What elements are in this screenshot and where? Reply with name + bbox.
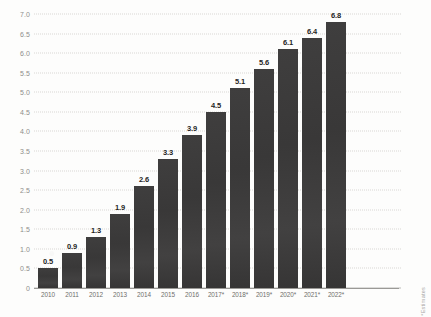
bar-value-label: 3.3 [152,148,184,157]
y-axis-tick-label: 1.5 [8,226,30,233]
x-axis-tick-label: 2022* [324,291,348,298]
bar-item[interactable]: 1.9 [110,0,130,288]
bar-value-label: 5.6 [248,58,280,67]
x-axis-tick-label: 2018* [228,291,252,298]
x-axis-tick-label: 2021* [300,291,324,298]
y-axis-tick-label: 4.0 [8,128,30,135]
bar[interactable] [62,253,82,288]
bar-item[interactable]: 6.1 [278,0,298,288]
y-axis-tick-label: 5.5 [8,69,30,76]
x-axis-tick-label: 2020* [276,291,300,298]
bar-value-label: 0.5 [32,257,64,266]
bar-item[interactable]: 0.5 [38,0,58,288]
y-axis-tick-label: 5.0 [8,89,30,96]
bar[interactable] [230,88,250,288]
bar[interactable] [302,38,322,289]
bar-item[interactable]: 0.9 [62,0,82,288]
bar-item[interactable]: 1.3 [86,0,106,288]
bar-value-label: 4.5 [200,101,232,110]
bar-item[interactable]: 6.8 [326,0,346,288]
x-axis-tick-label: 2013 [108,291,132,298]
bar-item[interactable]: 5.6 [254,0,274,288]
bar[interactable] [134,186,154,288]
y-axis-tick-label: 1.0 [8,245,30,252]
bar[interactable] [158,159,178,288]
bar-item[interactable]: 6.4 [302,0,322,288]
x-axis-tick-label: 2012 [84,291,108,298]
y-axis-tick-label: 3.5 [8,148,30,155]
bar[interactable] [326,22,346,288]
bar-item[interactable]: 4.5 [206,0,226,288]
y-axis-tick-label: 2.0 [8,206,30,213]
bar[interactable] [206,112,226,288]
bar-value-label: 3.9 [176,124,208,133]
bar-item[interactable]: 3.3 [158,0,178,288]
plot-area: 00.51.01.52.02.53.03.54.04.55.05.56.06.5… [0,0,431,317]
x-axis-tick-label: 2010 [36,291,60,298]
y-axis-tick-label: 2.5 [8,187,30,194]
bar[interactable] [110,214,130,288]
y-axis-tick-label: 6.5 [8,30,30,37]
bar-value-label: 5.1 [224,77,256,86]
y-axis-tick-label: 4.5 [8,108,30,115]
footnote-text: *Estimates [420,287,426,316]
y-axis-tick-label: 0.5 [8,265,30,272]
y-axis-tick-label: 0 [8,285,30,292]
bar-group: 0.50.91.31.92.63.33.94.55.15.66.16.46.8 [36,0,348,288]
y-axis-tick-label: 3.0 [8,167,30,174]
bar-value-label: 1.9 [104,203,136,212]
x-axis-tick-label: 2019* [252,291,276,298]
bar-value-label: 1.3 [80,226,112,235]
bar-item[interactable]: 3.9 [182,0,202,288]
x-axis-tick-label: 2014 [132,291,156,298]
bar[interactable] [38,268,58,288]
bar-item[interactable]: 2.6 [134,0,154,288]
x-axis-tick-label: 2016 [180,291,204,298]
bar[interactable] [182,135,202,288]
x-axis-line [34,288,399,289]
x-axis-tick-label: 2017* [204,291,228,298]
chart-page: 00.51.01.52.02.53.03.54.04.55.05.56.06.5… [0,0,431,317]
bar-value-label: 0.9 [56,242,88,251]
bar-value-label: 6.4 [296,27,328,36]
y-axis-tick-label: 6.0 [8,50,30,57]
bar-value-label: 6.8 [320,11,352,20]
bar-item[interactable]: 5.1 [230,0,250,288]
bar[interactable] [278,49,298,288]
bar[interactable] [86,237,106,288]
bar[interactable] [254,69,274,288]
bar-value-label: 2.6 [128,175,160,184]
x-axis-tick-label: 2015 [156,291,180,298]
y-axis-tick-label: 7.0 [8,11,30,18]
bar-value-label: 6.1 [272,38,304,47]
x-axis-tick-label: 2011 [60,291,84,298]
